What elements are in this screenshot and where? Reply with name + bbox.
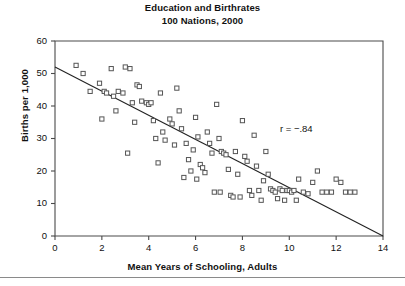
data-point <box>168 117 172 121</box>
data-point <box>201 166 205 170</box>
data-point <box>252 133 256 137</box>
data-point <box>224 153 228 157</box>
data-point <box>111 94 115 98</box>
data-point <box>182 175 186 179</box>
data-point <box>109 67 113 71</box>
data-point <box>301 190 305 194</box>
data-point <box>137 84 141 88</box>
data-point <box>297 177 301 181</box>
data-point <box>128 67 132 71</box>
data-point <box>163 138 167 142</box>
x-tick-10: 10 <box>277 242 301 253</box>
data-point <box>193 115 197 119</box>
data-point <box>121 91 125 95</box>
x-tick-0: 0 <box>43 242 67 253</box>
data-point <box>339 180 343 184</box>
data-point <box>156 161 160 165</box>
data-point <box>238 195 242 199</box>
data-point <box>320 190 324 194</box>
data-point <box>243 154 247 158</box>
data-point <box>240 119 244 123</box>
data-point <box>217 136 221 140</box>
data-point <box>215 102 219 106</box>
y-tick-20: 20 <box>21 165 47 176</box>
data-point <box>104 91 108 95</box>
x-axis-label: Mean Years of Schooling, Adults <box>0 261 405 272</box>
data-point <box>191 148 195 152</box>
data-point <box>175 86 179 90</box>
data-point <box>250 193 254 197</box>
data-point <box>233 149 237 153</box>
data-point <box>114 109 118 113</box>
data-point <box>179 127 183 131</box>
data-point <box>126 151 130 155</box>
y-tick-0: 0 <box>21 230 47 241</box>
data-point <box>177 109 181 113</box>
data-point <box>254 164 258 168</box>
data-point <box>154 136 158 140</box>
data-point <box>170 122 174 126</box>
data-point <box>264 149 268 153</box>
data-point <box>273 190 277 194</box>
y-tick-10: 10 <box>21 197 47 208</box>
data-point <box>315 169 319 173</box>
data-point <box>236 172 240 176</box>
data-point <box>245 159 249 163</box>
data-point <box>259 198 263 202</box>
x-tick-12: 12 <box>324 242 348 253</box>
data-point <box>311 180 315 184</box>
data-point <box>161 130 165 134</box>
data-point <box>189 169 193 173</box>
data-point <box>133 120 137 124</box>
data-point <box>325 190 329 194</box>
scatter-points <box>74 63 357 202</box>
data-point <box>294 198 298 202</box>
y-tick-30: 30 <box>21 132 47 143</box>
x-tick-2: 2 <box>90 242 114 253</box>
data-point <box>212 190 216 194</box>
x-tick-6: 6 <box>184 242 208 253</box>
correlation-annotation: r = −.84 <box>280 123 313 134</box>
y-tick-60: 60 <box>21 35 47 46</box>
data-point <box>226 167 230 171</box>
data-point <box>306 192 310 196</box>
y-tick-40: 40 <box>21 100 47 111</box>
data-point <box>151 119 155 123</box>
data-point <box>292 188 296 192</box>
data-point <box>97 81 101 85</box>
data-point <box>283 198 287 202</box>
data-point <box>329 190 333 194</box>
data-point <box>74 63 78 67</box>
data-point <box>88 89 92 93</box>
data-point <box>172 143 176 147</box>
chart-subtitle: 100 Nations, 2000 <box>0 15 405 28</box>
data-point <box>334 177 338 181</box>
y-tick-50: 50 <box>21 67 47 78</box>
data-point <box>158 91 162 95</box>
data-point <box>186 158 190 162</box>
data-point <box>231 195 235 199</box>
x-tick-4: 4 <box>137 242 161 253</box>
data-point <box>205 130 209 134</box>
x-tick-14: 14 <box>371 242 395 253</box>
x-tick-8: 8 <box>230 242 254 253</box>
chart-title: Education and Birthrates <box>0 2 405 15</box>
data-point <box>353 190 357 194</box>
data-point <box>140 99 144 103</box>
footer-divider <box>0 277 405 278</box>
data-point <box>208 141 212 145</box>
data-point <box>195 177 199 181</box>
chart-figure: Education and Birthrates 100 Nations, 20… <box>0 0 405 286</box>
data-point <box>100 117 104 121</box>
data-point <box>280 188 284 192</box>
data-point <box>343 190 347 194</box>
data-point <box>266 172 270 176</box>
data-point <box>184 141 188 145</box>
data-point <box>196 135 200 139</box>
data-point <box>130 101 134 105</box>
data-point <box>275 197 279 201</box>
chart-title-block: Education and Birthrates 100 Nations, 20… <box>0 2 405 27</box>
data-point <box>116 89 120 93</box>
data-point <box>123 65 127 69</box>
data-point <box>257 188 261 192</box>
